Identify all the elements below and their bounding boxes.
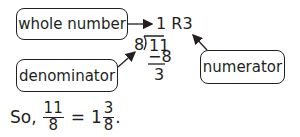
numerator-label: numerator bbox=[200, 50, 285, 84]
denominator-label: denominator bbox=[16, 59, 118, 92]
whole-number-label: whole number bbox=[16, 8, 128, 40]
arrow-numerator bbox=[193, 35, 207, 50]
summary-prefix: So, bbox=[10, 107, 37, 127]
divisor: 8 bbox=[134, 37, 144, 53]
arrow-denominator bbox=[118, 52, 135, 67]
summary-equation: So, 11 8 = 1 3 8 . bbox=[10, 101, 121, 134]
remainder: 3 bbox=[154, 67, 164, 83]
period: . bbox=[115, 107, 120, 127]
denominator-text: denominator bbox=[19, 67, 115, 85]
equals-sign: = bbox=[71, 107, 85, 127]
quotient: 1 R3 bbox=[156, 16, 193, 32]
mixed-fraction: 3 8 bbox=[103, 101, 115, 134]
subtraction: −8 bbox=[148, 49, 172, 65]
whole-number-text: whole number bbox=[18, 15, 126, 33]
improper-denominator: 8 bbox=[48, 118, 58, 134]
mixed-whole: 1 bbox=[91, 107, 102, 127]
numerator-text: numerator bbox=[203, 58, 282, 76]
mixed-denominator: 8 bbox=[104, 118, 114, 134]
improper-fraction: 11 8 bbox=[43, 101, 64, 134]
